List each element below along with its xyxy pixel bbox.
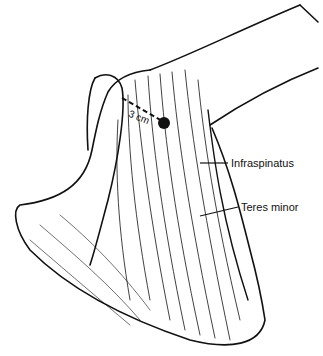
label-infraspinatus: Infraspinatus: [231, 157, 294, 169]
teres-minor-leader: [200, 207, 238, 216]
landmark-point: [158, 117, 170, 129]
anatomical-illustration: 3 cm Infraspinatus Teres minor: [0, 0, 323, 356]
scapula-drawing: [0, 0, 323, 356]
label-teres-minor: Teres minor: [241, 201, 298, 213]
